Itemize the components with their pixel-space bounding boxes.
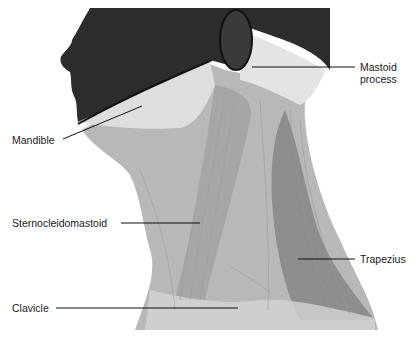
neck-illustration: [0, 0, 417, 345]
label-mastoid-line2: process: [360, 73, 397, 85]
label-trapezius: Trapezius: [360, 253, 406, 265]
label-clavicle: Clavicle: [12, 302, 49, 314]
ear: [220, 10, 252, 70]
label-mandible: Mandible: [12, 134, 55, 146]
label-mastoid-line1: Mastoid: [360, 61, 397, 73]
label-mastoid-process: Mastoid process: [360, 61, 397, 85]
neck-anatomy-diagram: Mastoid process Mandible Sternocleidomas…: [0, 0, 417, 345]
label-sternocleidomastoid: Sternocleidomastoid: [12, 217, 107, 229]
